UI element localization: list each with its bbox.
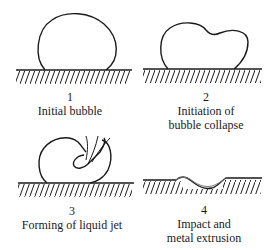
panel-4-caption-line-1: Impact and [144,217,264,231]
metal-hatching-right [223,180,261,194]
panel-3-liquid-jet [18,136,134,197]
bubble [39,138,111,183]
panel-1-number: 1 [40,90,100,104]
panel-4-number: 4 [174,203,234,217]
panel-4-caption-line-2: metal extrusion [144,231,264,245]
panel-3-caption: Forming of liquid jet [6,218,138,232]
bubble [38,14,116,70]
panel-2-number: 2 [176,90,236,104]
panel-2-caption-line-2: bubble collapse [146,118,266,132]
panel-4-impact [143,177,262,194]
panel-1-caption: Initial bubble [10,104,130,118]
panel-3-number: 3 [42,204,102,218]
jet-line [86,136,88,160]
metal-hatching [143,70,261,83]
metal-hatching-left [143,181,183,194]
panel-2-caption-line-1: Initiation of [146,104,266,118]
panel-1-initial-bubble [16,14,132,84]
metal-hatching-middle [183,189,223,194]
metal-hatching [18,184,132,197]
bubble [161,23,248,69]
metal-hatching [16,71,130,84]
panel-2-collapse-start [143,23,262,83]
